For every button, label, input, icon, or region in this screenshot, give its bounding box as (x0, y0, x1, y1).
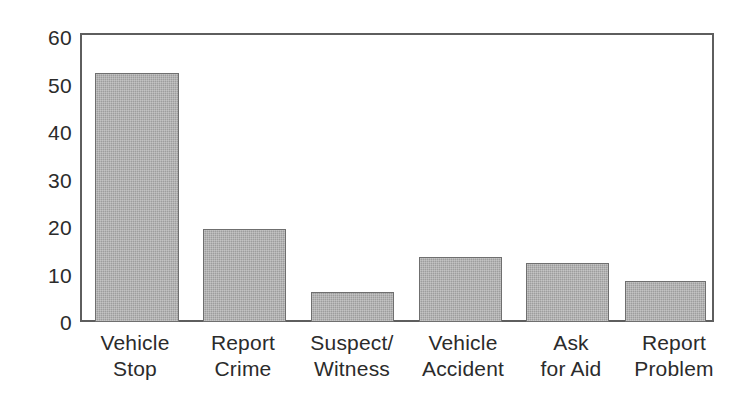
y-tick-label: 20 (0, 217, 72, 238)
bar-report-crime (203, 229, 286, 322)
x-tick-line2: for Aid (517, 356, 625, 382)
y-tick-label: 40 (0, 122, 72, 143)
x-axis-tick-labels: Vehicle Stop Report Crime Suspect/ Witne… (80, 330, 714, 400)
bar-vehicle-accident (419, 257, 502, 322)
x-tick-line2: Stop (80, 356, 190, 382)
x-tick-line1: Suspect/ (310, 331, 393, 354)
x-tick-label-vehicle-accident: Vehicle Accident (405, 330, 521, 382)
x-tick-label-report-problem: Report Problem (612, 330, 736, 382)
bars-layer (82, 35, 712, 322)
y-tick-label: 30 (0, 169, 72, 190)
x-tick-label-suspect-witness: Suspect/ Witness (294, 330, 410, 382)
bar-suspect-witness (311, 292, 394, 322)
x-tick-label-vehicle-stop: Vehicle Stop (80, 330, 190, 382)
x-tick-line2: Crime (188, 356, 298, 382)
x-tick-line2: Problem (612, 356, 736, 382)
y-tick-label: 10 (0, 264, 72, 285)
bar-report-problem (625, 281, 706, 322)
x-tick-line1: Ask (553, 331, 589, 354)
y-tick-label: 50 (0, 74, 72, 95)
x-tick-label-ask-for-aid: Ask for Aid (517, 330, 625, 382)
bar-ask-for-aid (526, 263, 609, 322)
y-tick-label: 0 (0, 312, 72, 333)
x-tick-line1: Report (211, 331, 275, 354)
x-tick-line1: Report (642, 331, 706, 354)
x-tick-line2: Witness (294, 356, 410, 382)
x-tick-line2: Accident (405, 356, 521, 382)
x-tick-line1: Vehicle (428, 331, 497, 354)
y-axis-tick-labels: 60 50 40 30 20 10 0 (0, 0, 72, 404)
bar-vehicle-stop (95, 73, 179, 322)
y-tick-label: 60 (0, 27, 72, 48)
x-tick-line1: Vehicle (100, 331, 169, 354)
bar-chart: 60 50 40 30 20 10 0 Vehicle Stop Report … (0, 0, 752, 404)
x-tick-label-report-crime: Report Crime (188, 330, 298, 382)
